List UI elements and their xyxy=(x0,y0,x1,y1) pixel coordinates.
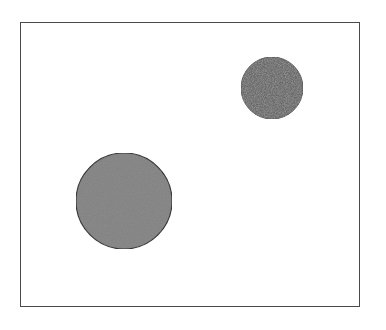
large-light-circle xyxy=(76,153,172,249)
small-dark-circle xyxy=(241,57,303,119)
figure-canvas xyxy=(0,0,386,330)
